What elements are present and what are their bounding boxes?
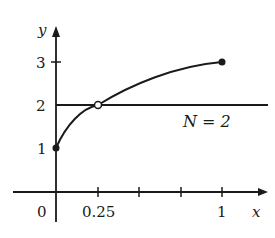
point-end-filled	[219, 59, 226, 66]
x-tick-label-1: 1	[217, 203, 227, 221]
x-axis-label: x	[252, 203, 261, 221]
y-axis-label: y	[37, 21, 47, 39]
y-axis-arrow-icon	[52, 26, 60, 37]
x-axis-arrow-icon	[258, 188, 268, 196]
origin-label: 0	[37, 203, 47, 221]
y-tick-label-2: 2	[36, 97, 46, 115]
y-tick-label-3: 3	[36, 54, 46, 72]
function-graph: y 3 2 1 0 0.25 1 x N = 2	[0, 0, 275, 238]
point-intersection-open	[95, 102, 102, 109]
line-label-n2: N = 2	[182, 112, 231, 131]
x-axis	[13, 187, 268, 197]
x-tick-label-0.25: 0.25	[82, 203, 115, 221]
point-start-filled	[53, 145, 60, 152]
y-tick-label-1: 1	[37, 140, 47, 158]
